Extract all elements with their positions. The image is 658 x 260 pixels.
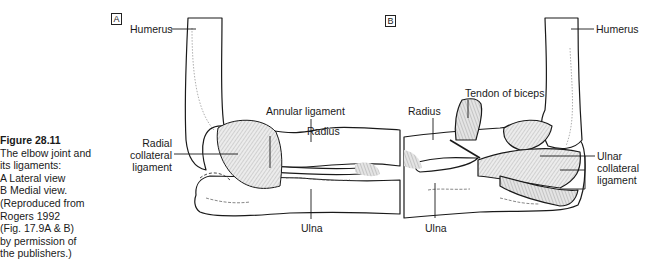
label-ulnar-collateral-line3: ligament <box>597 174 637 186</box>
label-tendon-of-biceps: Tendon of biceps <box>465 87 544 99</box>
label-ulna-a: Ulna <box>301 222 323 234</box>
label-radial-collateral-line1: Radial <box>124 137 172 149</box>
biceps-tendon-b <box>455 99 482 140</box>
label-humerus-a: Humerus <box>130 23 173 35</box>
label-humerus-b: Humerus <box>596 23 639 35</box>
panel-b-drawing <box>404 18 585 218</box>
panel-tag-b: B <box>385 15 396 27</box>
caption-line: the publishers.) <box>0 247 110 260</box>
label-radius-b: Radius <box>408 105 441 117</box>
panel-tag-a: A <box>111 13 122 25</box>
label-radial-collateral-line2: collateral <box>124 149 172 161</box>
label-ulnar-collateral-line1: Ulnar <box>597 150 622 162</box>
label-annular-ligament: Annular ligament <box>266 105 345 117</box>
ulna-bone-a <box>195 176 400 216</box>
label-radial-collateral-line3: ligament <box>124 161 172 173</box>
label-ulnar-collateral-line2: collateral <box>597 162 639 174</box>
label-radius-a: Radius <box>307 125 340 137</box>
label-ulna-b: Ulna <box>425 222 447 234</box>
